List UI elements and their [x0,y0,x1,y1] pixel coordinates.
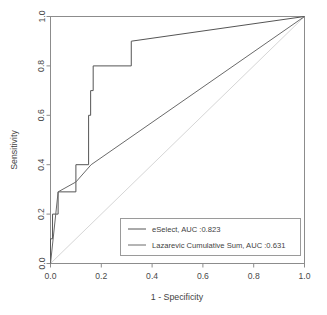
y-tick-label: 0.8 [37,60,47,72]
y-tick-label: 0.0 [37,257,47,269]
legend-label-eselect: eSelect, AUC :0.823 [152,225,220,234]
legend-label-lazarevic: Lazarevic Cumulative Sum, AUC :0.631 [152,241,285,250]
figure-background [0,0,327,315]
x-tick-label: 0.4 [146,271,158,281]
legend: eSelect, AUC :0.823 Lazarevic Cumulative… [121,219,301,256]
roc-curve-figure: 0.00.20.40.60.81.0 0.00.20.40.60.81.0 1 … [0,0,327,315]
y-tick-label: 0.4 [37,159,47,171]
y-tick-label: 0.2 [37,208,47,220]
legend-entry-lazarevic: Lazarevic Cumulative Sum, AUC :0.631 [128,241,285,250]
x-tick-label: 0.0 [45,271,57,281]
x-tick-label: 1.0 [299,271,311,281]
x-axis-title: 1 - Specificity [151,292,204,302]
x-tick-label: 0.8 [248,271,260,281]
y-tick-label: 0.6 [37,109,47,121]
x-tick-label: 0.6 [197,271,209,281]
roc-plot-canvas: 0.00.20.40.60.81.0 0.00.20.40.60.81.0 1 … [0,0,327,315]
y-tick-label: 1.0 [37,10,47,22]
x-tick-label: 0.2 [95,271,107,281]
y-axis-title: Sensitivity [9,130,19,170]
